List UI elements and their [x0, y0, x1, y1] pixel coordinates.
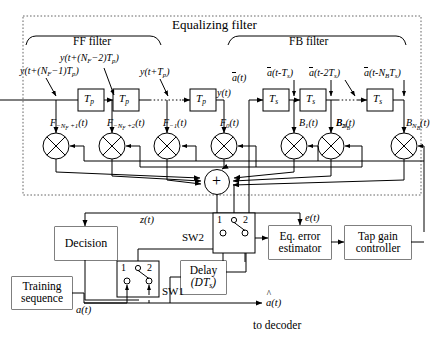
sw2-pos2: 2: [243, 215, 248, 225]
ff-signal-label-4: y(t): [217, 88, 231, 98]
equalizing-filter-title: Equalizing filter: [172, 18, 257, 31]
ff-delay-label-2: Tp: [119, 93, 129, 106]
ff-signal-label-1: y(t+(NF−1)Tp): [20, 66, 79, 78]
sw1-pos1: 1: [121, 263, 126, 273]
fb-multiplier-1: [281, 133, 307, 159]
gain-feed-6: [345, 146, 362, 167]
fb-multiplier-2: [318, 133, 344, 159]
ff-delay-label-1: Tp: [84, 93, 94, 106]
ff-coeff-3: F−1(t): [163, 118, 187, 130]
ff-coeff-4: F0(t): [220, 118, 239, 130]
ff-signal-label-2: y(t+(NF−2)Tp): [60, 53, 119, 65]
ff-multiplier-4: [211, 133, 237, 159]
sw2-pos1: 1: [217, 215, 222, 225]
sw1-label: SW1: [162, 286, 184, 297]
fb-signal-label-3: a(t-NBTs): [364, 68, 401, 80]
z-label: z(t): [140, 215, 154, 226]
a-hat-label: a(t): [266, 298, 281, 309]
fb-coeff-1: B1(t): [299, 118, 318, 130]
gain-feed-3: [182, 146, 196, 161]
ptr-fb-dots: [345, 80, 355, 96]
ptr-ff-1: [46, 78, 56, 96]
gain-feed-2: [126, 146, 140, 167]
ptr-ff-2: [104, 68, 114, 95]
fb-signal-label-1: a(t-Ts): [267, 68, 293, 80]
sum-in-7: [233, 159, 404, 185]
sum-plus-symbol: +: [212, 173, 221, 189]
training-line-2: sequence: [21, 293, 63, 305]
sw2-common: [231, 217, 236, 222]
a-input-label: a(t): [76, 305, 91, 316]
sum-in-1: [56, 159, 200, 178]
fb-coeff-2b: B2(t): [336, 118, 355, 130]
decision-block-label: Decision: [55, 227, 117, 260]
sw1-common: [135, 265, 140, 270]
ff-signal-label-3: y(t+Tp): [140, 67, 170, 79]
fb-coeff-3: BNB(t): [406, 118, 430, 131]
tap-line-2: controller: [356, 243, 401, 255]
e-label: e(t): [305, 213, 320, 224]
tap-gain-label: Tap gain controller: [345, 226, 411, 259]
ff-multiplier-1: [43, 133, 69, 159]
error-estimator-label: Eq. error estimator: [269, 226, 331, 259]
ff-coeff-2: F−NF +2(t): [107, 118, 145, 131]
gain-feed-5: [308, 146, 318, 161]
sum-in-5: [234, 159, 294, 178]
fb-filter-title: FB filter: [289, 36, 328, 48]
fb-signal-label-0: a(t): [232, 73, 246, 83]
ff-coeff-1: F−NF +1(t): [50, 118, 88, 131]
tap-line-1: Tap gain: [358, 231, 398, 243]
delay-line-2: (DTs): [191, 277, 216, 290]
fb-multiplier-3: [391, 133, 417, 159]
fb-delay-label-1: Ts: [269, 93, 278, 106]
sum-in-6: [233, 159, 331, 181]
training-block-label: Training sequence: [12, 277, 72, 309]
ff-multiplier-2: [99, 133, 125, 159]
ff-filter-title: FF filter: [73, 36, 111, 48]
dfe-block-diagram: Equalizing filter FF filter FB filter y(…: [0, 0, 434, 342]
delay-block-label: Delay (DTs): [181, 261, 226, 294]
to-decoder-label: to decoder: [253, 320, 301, 332]
err-line-1: Eq. error: [280, 231, 321, 243]
sw1-contact-1: [124, 278, 130, 284]
gain-feed-1: [70, 146, 84, 161]
fb-delay-label-2: Ts: [306, 93, 315, 106]
err-line-2: estimator: [279, 243, 322, 255]
fb-signal-label-2: a(t-2Ts): [309, 68, 340, 80]
fb-delay-label-3: Ts: [373, 93, 382, 106]
sw2-contact-1: [220, 230, 226, 236]
sw2-label: SW2: [182, 232, 204, 243]
sw2-contact-2: [242, 230, 248, 236]
gain-feed-4: [238, 146, 256, 167]
ff-delay-label-3: Tp: [196, 93, 206, 106]
ff-multiplier-3: [154, 133, 180, 159]
sw1-contact-2: [146, 278, 152, 284]
sw1-pos2: 2: [147, 263, 152, 273]
ptr-ff-3: [160, 79, 168, 96]
